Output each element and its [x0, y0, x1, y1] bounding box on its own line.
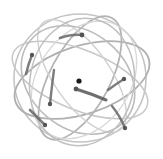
comet-head	[30, 53, 34, 57]
comet-head	[80, 33, 85, 38]
comet	[76, 89, 106, 100]
comet-head	[48, 102, 52, 106]
comet-head	[43, 123, 47, 127]
nucleus-dot	[76, 78, 81, 83]
comet-head	[74, 87, 79, 92]
comet-head	[122, 77, 126, 81]
comet	[50, 70, 54, 104]
orbit-sphere-graphic	[0, 0, 163, 159]
comet-head	[123, 126, 127, 130]
